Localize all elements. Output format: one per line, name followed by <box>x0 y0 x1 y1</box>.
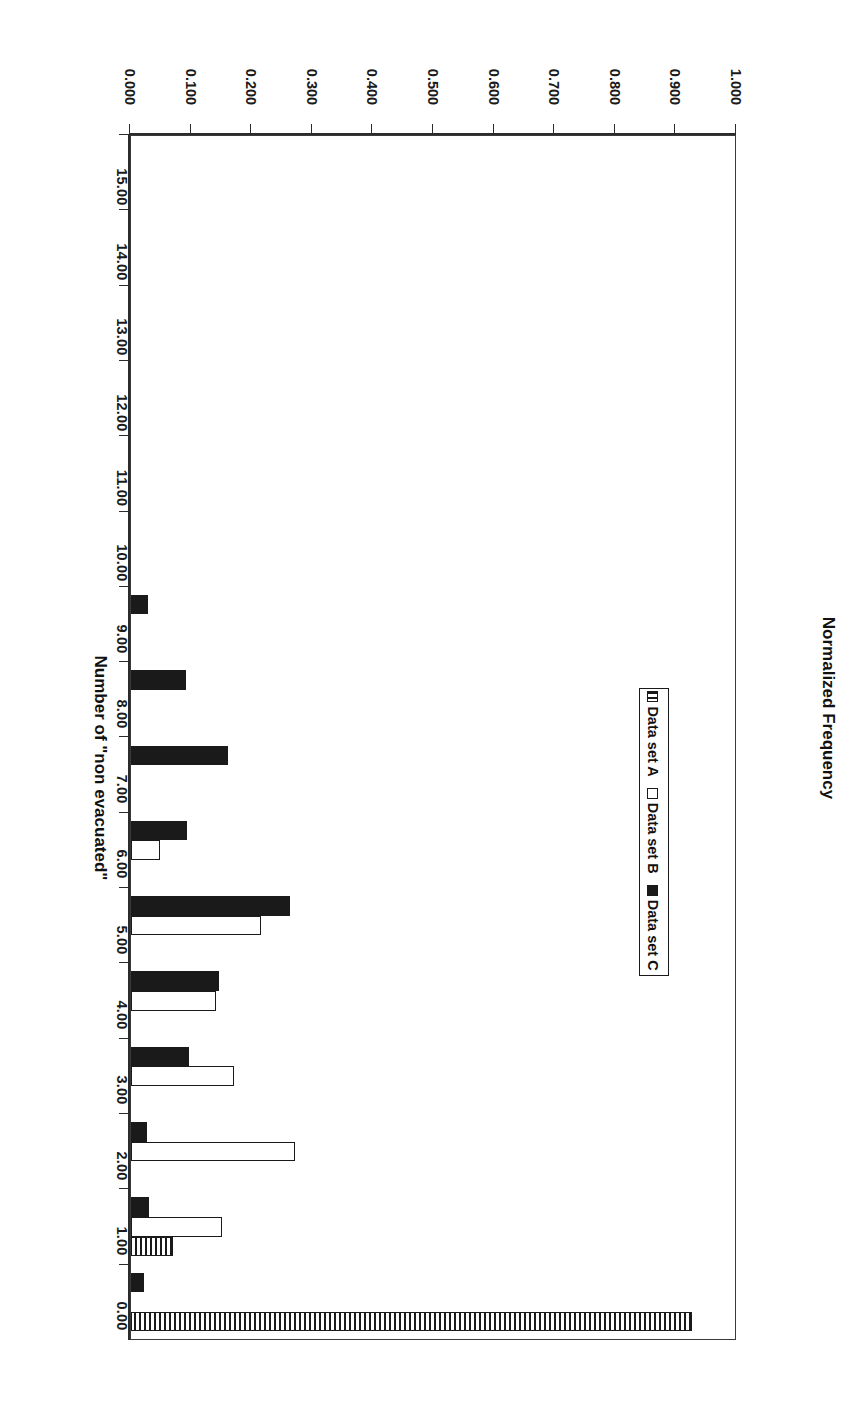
bar-data-set-a-0 <box>131 1312 692 1332</box>
hatched-swatch <box>648 691 659 702</box>
value-tick <box>250 124 251 135</box>
value-tick-label: 0.200 <box>243 52 259 122</box>
value-tick-label: 0.000 <box>122 52 138 122</box>
value-tick <box>190 124 191 135</box>
bar-data-set-c-5 <box>131 896 290 916</box>
value-tick-label: 0.400 <box>364 52 380 122</box>
value-tick <box>129 124 130 135</box>
bar-data-set-c-1 <box>131 1197 149 1217</box>
legend-item-data-set-a: Data set A <box>645 691 661 776</box>
rotated-figure-container: 0.001.002.003.004.005.006.007.008.009.00… <box>0 0 854 1408</box>
category-axis-title: Number of "non evacuated" <box>90 558 110 978</box>
value-tick <box>311 124 312 135</box>
legend-items: Data set AData set BData set C <box>640 689 666 973</box>
value-tick-label: 0.800 <box>607 52 623 122</box>
value-tick <box>493 124 494 135</box>
chart-legend: Data set AData set BData set C <box>639 688 669 976</box>
legend-item-label: Data set C <box>645 900 661 971</box>
bar-data-set-b-4 <box>131 991 216 1011</box>
bar-data-set-b-5 <box>131 916 261 936</box>
value-tick-label: 0.100 <box>183 52 199 122</box>
black-swatch <box>648 885 659 896</box>
bar-data-set-c-2 <box>131 1122 147 1142</box>
bar-data-set-c-0 <box>131 1273 144 1293</box>
legend-item-label: Data set B <box>645 803 661 874</box>
value-tick-label: 0.900 <box>667 52 683 122</box>
bar-data-set-c-7 <box>131 746 228 766</box>
value-tick <box>553 124 554 135</box>
value-tick <box>432 124 433 135</box>
bar-data-set-c-8 <box>131 670 186 690</box>
bar-data-set-b-3 <box>131 1066 234 1086</box>
bar-data-set-b-2 <box>131 1142 295 1162</box>
legend-item-label: Data set A <box>645 706 661 776</box>
chart-figure: 0.001.002.003.004.005.006.007.008.009.00… <box>0 0 854 1408</box>
bar-data-set-c-4 <box>131 971 219 991</box>
legend-item-data-set-b: Data set B <box>645 788 661 874</box>
value-tick-label: 0.700 <box>546 52 562 122</box>
bar-data-set-b-1 <box>131 1217 222 1237</box>
bar-data-set-c-9 <box>131 595 148 615</box>
bar-data-set-a-1 <box>131 1237 173 1257</box>
value-tick <box>371 124 372 135</box>
bar-data-set-c-3 <box>131 1047 189 1067</box>
value-tick-label: 1.000 <box>728 52 744 122</box>
value-tick-label: 0.300 <box>304 52 320 122</box>
bar-data-set-b-6 <box>131 840 160 860</box>
category-tick-label: 15.00 <box>114 118 130 228</box>
value-tick <box>614 124 615 135</box>
bar-data-set-c-6 <box>131 821 187 841</box>
value-tick <box>674 124 675 135</box>
value-tick <box>735 124 736 135</box>
value-tick-label: 0.600 <box>486 52 502 122</box>
value-axis-title: Normalized Frequency <box>818 498 838 918</box>
white-swatch <box>648 788 659 799</box>
value-tick-label: 0.500 <box>425 52 441 122</box>
legend-item-data-set-c: Data set C <box>645 885 661 971</box>
